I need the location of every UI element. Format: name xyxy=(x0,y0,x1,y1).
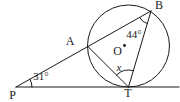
chord-AT xyxy=(88,47,129,87)
circle xyxy=(88,5,170,87)
angle-arc-P xyxy=(30,79,32,87)
chord-BT xyxy=(129,11,152,87)
angle-arc-B xyxy=(140,18,148,24)
label-T: T xyxy=(124,86,132,100)
angle-value-B: 44° xyxy=(126,28,141,40)
diagram-canvas: P A B T O 31° 44° x xyxy=(0,0,180,102)
label-P: P xyxy=(9,88,16,102)
circle-center-dot xyxy=(123,44,126,47)
angle-value-P: 31° xyxy=(33,70,48,82)
geometry-diagram: P A B T O 31° 44° x xyxy=(0,0,180,102)
label-A: A xyxy=(66,34,75,48)
angle-value-T: x xyxy=(116,61,122,73)
label-B: B xyxy=(155,0,163,12)
label-O: O xyxy=(113,44,122,58)
